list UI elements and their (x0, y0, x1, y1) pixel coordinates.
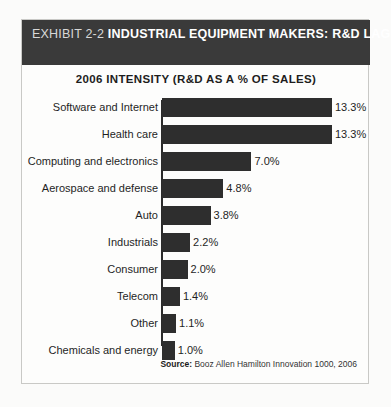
bar-category-label: Health care (102, 127, 158, 142)
bar-value-label: 1.1% (179, 316, 204, 331)
bar-category-label: Aerospace and defense (42, 181, 158, 196)
bar-value-label: 3.8% (214, 208, 239, 223)
bar-row: Auto3.8% (22, 206, 370, 225)
bar-row: Consumer2.0% (22, 260, 370, 279)
source-text: Booz Allen Hamilton Innovation 1000, 200… (194, 359, 357, 369)
chart-subtitle: 2006 INTENSITY (R&D AS A % OF SALES) (22, 73, 370, 85)
bar (162, 125, 332, 144)
bar-row: Industrials2.2% (22, 233, 370, 252)
bar-value-label: 13.3% (335, 100, 366, 115)
bar-value-label: 4.8% (226, 181, 251, 196)
bar (162, 98, 332, 117)
bar-value-label: 1.0% (178, 343, 203, 358)
bar (162, 260, 188, 279)
bar-row: Software and Internet13.3% (22, 98, 370, 117)
bar (162, 341, 175, 360)
bar-row: Computing and electronics7.0% (22, 152, 370, 171)
bar-row: Other1.1% (22, 314, 370, 333)
bar-category-label: Telecom (117, 289, 158, 304)
exhibit-figure: EXHIBIT 2-2 INDUSTRIAL EQUIPMENT MAKERS:… (21, 19, 369, 384)
bar-row: Chemicals and energy1.0% (22, 341, 370, 360)
bar-category-label: Industrials (108, 235, 158, 250)
exhibit-header-line: EXHIBIT 2-2 INDUSTRIAL EQUIPMENT MAKERS:… (32, 26, 360, 43)
bar (162, 314, 176, 333)
bar-category-label: Computing and electronics (28, 154, 158, 169)
bar-value-label: 2.0% (191, 262, 216, 277)
bar-category-label: Auto (135, 208, 158, 223)
bar (162, 287, 180, 306)
exhibit-number: EXHIBIT 2-2 (32, 27, 104, 41)
bar-value-label: 2.2% (193, 235, 218, 250)
bar-category-label: Consumer (107, 262, 158, 277)
bar-category-label: Other (130, 316, 158, 331)
bar (162, 233, 190, 252)
bar (162, 152, 251, 171)
bar-value-label: 1.4% (183, 289, 208, 304)
exhibit-header: EXHIBIT 2-2 INDUSTRIAL EQUIPMENT MAKERS:… (22, 20, 370, 65)
bar-chart-plot-area: Software and Internet13.3%Health care13.… (22, 98, 370, 348)
bar-category-label: Software and Internet (53, 100, 158, 115)
exhibit-title: INDUSTRIAL EQUIPMENT MAKERS: R&D LAGGARD… (108, 27, 391, 41)
bar-row: Telecom1.4% (22, 287, 370, 306)
bar (162, 206, 211, 225)
bar (162, 179, 223, 198)
bar-category-label: Chemicals and energy (49, 343, 158, 358)
bar-value-label: 13.3% (335, 127, 366, 142)
source-note: Source: Booz Allen Hamilton Innovation 1… (160, 359, 357, 369)
source-label: Source: (160, 359, 192, 369)
bar-value-label: 7.0% (254, 154, 279, 169)
bar-row: Aerospace and defense4.8% (22, 179, 370, 198)
bar-row: Health care13.3% (22, 125, 370, 144)
